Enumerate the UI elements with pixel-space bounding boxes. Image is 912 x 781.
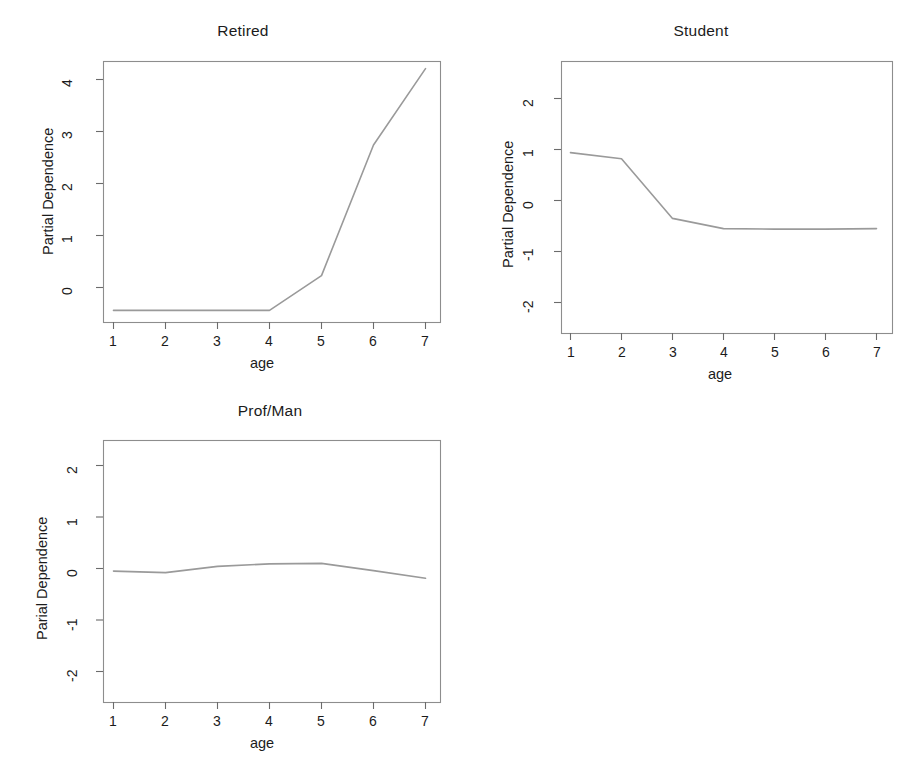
partial-dependence-figure: Retired Partial Dependence age 0 1 2 3 4… xyxy=(0,0,912,781)
data-line-profman xyxy=(114,563,426,578)
plot-area-profman xyxy=(0,0,912,781)
